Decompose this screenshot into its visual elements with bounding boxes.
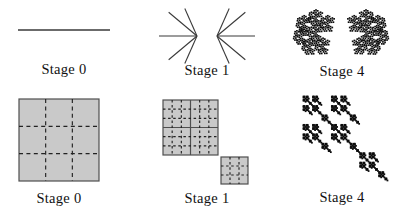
- stage1-fan-figure: [159, 9, 255, 64]
- stage0-square-figure: [19, 99, 99, 181]
- stage4-cluster-figure: [303, 96, 389, 182]
- stage4-rosette-figure: [293, 9, 389, 55]
- label-top-middle-stage: Stage 1: [157, 63, 257, 78]
- label-top-right-stage: Stage 4: [292, 64, 392, 79]
- label-bottom-left-stage: Stage 0: [9, 191, 109, 206]
- stage1-squares-figure: [163, 100, 248, 184]
- fractal-stages-diagram: Stage 0 Stage 1 Stage 4 Stage 0 Stage 1 …: [0, 0, 403, 216]
- label-top-left-stage: Stage 0: [14, 62, 114, 77]
- figure-layer: [0, 0, 403, 216]
- label-bottom-middle-stage: Stage 1: [157, 191, 257, 206]
- label-bottom-right-stage: Stage 4: [292, 190, 392, 205]
